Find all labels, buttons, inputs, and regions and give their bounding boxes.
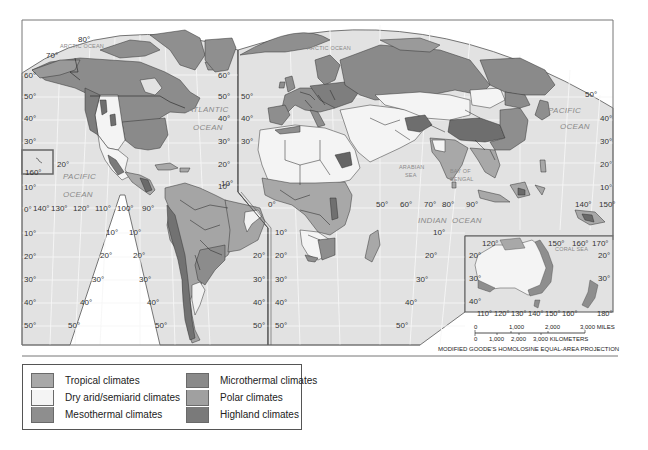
svg-text:180°: 180° <box>597 309 613 318</box>
svg-text:30°: 30° <box>218 137 230 146</box>
swatch-mesothermal <box>31 407 54 423</box>
svg-text:30°: 30° <box>241 137 253 146</box>
svg-text:40°: 40° <box>253 298 265 307</box>
label-80deg: 80° <box>78 35 90 44</box>
svg-text:30°: 30° <box>92 275 104 284</box>
svg-text:1,000: 1,000 <box>489 336 505 342</box>
label-atlantic-ocean: OCEAN <box>193 123 223 132</box>
climate-legend: Tropical climates Dry arid/semiarid clim… <box>22 364 302 430</box>
scale-bar: 0 1,000 2,000 3,000 MILES 0 1,000 2,000 … <box>474 324 615 342</box>
svg-text:50°: 50° <box>24 321 36 330</box>
svg-text:20°: 20° <box>24 252 36 261</box>
svg-text:160°: 160° <box>562 309 578 318</box>
svg-text:2,000: 2,000 <box>545 324 561 330</box>
svg-text:150°: 150° <box>545 309 561 318</box>
svg-text:3,000 KILOMETERS: 3,000 KILOMETERS <box>533 336 588 342</box>
legend-label: Tropical climates <box>65 375 140 386</box>
svg-text:1,000: 1,000 <box>509 324 525 330</box>
svg-text:120°: 120° <box>73 204 90 213</box>
svg-text:130°: 130° <box>51 204 68 213</box>
label-hawaii-160: 160° <box>25 168 42 177</box>
svg-text:0: 0 <box>474 336 478 342</box>
svg-text:40°: 40° <box>147 298 159 307</box>
swatch-dry <box>31 390 54 406</box>
swatch-tropical <box>31 373 54 388</box>
svg-text:120°: 120° <box>494 309 510 318</box>
svg-text:50°: 50° <box>376 200 388 209</box>
label-indian-ocean: OCEAN <box>452 216 482 225</box>
svg-text:30°: 30° <box>275 275 287 284</box>
svg-text:40°: 40° <box>405 298 417 307</box>
svg-text:170°: 170° <box>592 239 609 248</box>
svg-text:0°: 0° <box>24 205 32 214</box>
svg-text:70°: 70° <box>424 200 436 209</box>
svg-text:30°: 30° <box>598 274 610 283</box>
label-10deg-sa-east: 10° <box>221 179 233 188</box>
swatch-microthermal <box>186 373 209 388</box>
svg-text:2,000: 2,000 <box>511 336 527 342</box>
legend-item-polar: Polar climates <box>186 389 317 406</box>
svg-text:30°: 30° <box>469 274 481 283</box>
svg-text:20°: 20° <box>598 251 610 260</box>
svg-text:20°: 20° <box>275 251 287 260</box>
svg-text:20°: 20° <box>600 160 612 169</box>
legend-label: Mesothermal climates <box>65 409 162 420</box>
label-pacific-east-ocean: OCEAN <box>560 122 590 131</box>
svg-text:10°: 10° <box>129 228 141 237</box>
legend-label: Highland climates <box>220 409 299 420</box>
legend-label: Microthermal climates <box>220 375 317 386</box>
svg-text:0°: 0° <box>268 200 276 209</box>
svg-text:110°: 110° <box>477 309 492 318</box>
svg-text:10°: 10° <box>600 183 612 192</box>
legend-label: Dry arid/semiarid climates <box>65 392 180 403</box>
svg-text:10°: 10° <box>24 183 36 192</box>
svg-text:60°: 60° <box>24 71 36 80</box>
svg-text:0: 0 <box>474 324 478 330</box>
svg-text:50°: 50° <box>24 92 36 101</box>
lat-labels-eu-left: 50° 40° 30° <box>241 92 253 146</box>
svg-text:110°: 110° <box>95 204 111 213</box>
svg-text:140°: 140° <box>575 200 592 209</box>
svg-text:20°: 20° <box>218 160 230 169</box>
svg-text:20°: 20° <box>100 251 112 260</box>
svg-text:50°: 50° <box>396 321 408 330</box>
svg-text:30°: 30° <box>24 275 36 284</box>
legend-column-right: Microthermal climates Polar climates Hig… <box>186 372 317 423</box>
svg-text:10°: 10° <box>24 229 36 238</box>
svg-text:40°: 40° <box>600 114 612 123</box>
svg-text:50°: 50° <box>218 92 230 101</box>
svg-text:30°: 30° <box>139 275 151 284</box>
svg-text:100°: 100° <box>117 204 134 213</box>
svg-text:160°: 160° <box>572 239 589 248</box>
svg-text:90°: 90° <box>142 204 154 213</box>
svg-text:30°: 30° <box>253 275 265 284</box>
svg-text:120°: 120° <box>482 239 499 248</box>
svg-text:30°: 30° <box>24 137 36 146</box>
swatch-polar <box>186 390 209 406</box>
label-pacific-west-ocean: OCEAN <box>63 190 93 199</box>
svg-text:30°: 30° <box>416 275 428 284</box>
svg-text:140°: 140° <box>33 204 50 213</box>
legend-label: Polar climates <box>220 392 283 403</box>
legend-item-microthermal: Microthermal climates <box>186 372 317 389</box>
svg-text:10°: 10° <box>106 228 118 237</box>
legend-item-highland: Highland climates <box>186 406 317 423</box>
svg-text:130°: 130° <box>511 309 527 318</box>
svg-text:40°: 40° <box>469 297 481 306</box>
svg-text:90°: 90° <box>466 200 478 209</box>
legend-item-mesothermal: Mesothermal climates <box>31 406 180 423</box>
svg-text:50°: 50° <box>275 321 287 330</box>
svg-text:50°: 50° <box>155 321 167 330</box>
svg-text:20°: 20° <box>133 251 145 260</box>
legend-item-dry: Dry arid/semiarid climates <box>31 389 180 406</box>
svg-text:10°: 10° <box>275 228 287 237</box>
svg-text:140°: 140° <box>528 309 544 318</box>
svg-text:40°: 40° <box>241 114 253 123</box>
label-bay-of-bengal: BAY OF <box>450 168 471 174</box>
label-arabian-sea-2: SEA <box>405 172 417 178</box>
svg-text:80°: 80° <box>442 200 454 209</box>
legend-item-tropical: Tropical climates <box>31 372 180 389</box>
label-pacific-west: PACIFIC <box>63 172 96 181</box>
svg-text:10°: 10° <box>433 228 445 237</box>
svg-text:30°: 30° <box>600 137 612 146</box>
